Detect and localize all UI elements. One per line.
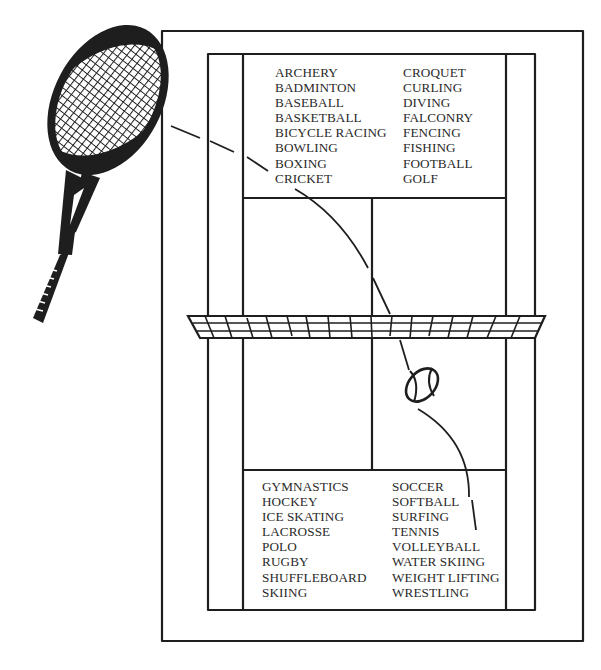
sport-item: SKIING	[262, 585, 367, 600]
sport-item: SOFTBALL	[392, 494, 500, 509]
sport-item: FOOTBALL	[403, 156, 473, 171]
sport-item: GYMNASTICS	[262, 479, 367, 494]
sport-item: FALCONRY	[403, 110, 473, 125]
sport-item: LACROSSE	[262, 524, 367, 539]
sport-item: BADMINTON	[275, 80, 387, 95]
tennis-racket-icon	[23, 4, 193, 323]
tennis-ball-icon	[400, 362, 445, 408]
sport-item: BICYCLE RACING	[275, 125, 387, 140]
sport-item: WATER SKIING	[392, 554, 500, 569]
sport-item: BASKETBALL	[275, 110, 387, 125]
sport-item: SHUFFLEBOARD	[262, 570, 367, 585]
sport-item: VOLLEYBALL	[392, 539, 500, 554]
sports-list-top-left: ARCHERY BADMINTON BASEBALL BASKETBALL BI…	[275, 65, 387, 186]
sports-list-bottom-left: GYMNASTICS HOCKEY ICE SKATING LACROSSE P…	[262, 479, 367, 600]
net	[188, 316, 545, 338]
sport-item: FENCING	[403, 125, 473, 140]
sport-item: BOXING	[275, 156, 387, 171]
sport-item: WEIGHT LIFTING	[392, 570, 500, 585]
sport-item: ICE SKATING	[262, 509, 367, 524]
sport-item: DIVING	[403, 95, 473, 110]
sport-item: TENNIS	[392, 524, 500, 539]
sports-list-top-right: CROQUET CURLING DIVING FALCONRY FENCING …	[403, 65, 473, 186]
sport-item: BOWLING	[275, 140, 387, 155]
sport-item: CROQUET	[403, 65, 473, 80]
sport-item: ARCHERY	[275, 65, 387, 80]
sports-list-bottom-right: SOCCER SOFTBALL SURFING TENNIS VOLLEYBAL…	[392, 479, 500, 600]
sport-item: HOCKEY	[262, 494, 367, 509]
sport-item: SURFING	[392, 509, 500, 524]
sport-item: CRICKET	[275, 171, 387, 186]
sport-item: POLO	[262, 539, 367, 554]
sport-item: WRESTLING	[392, 585, 500, 600]
sport-item: RUGBY	[262, 554, 367, 569]
sport-item: GOLF	[403, 171, 473, 186]
sport-item: SOCCER	[392, 479, 500, 494]
sport-item: CURLING	[403, 80, 473, 95]
sport-item: FISHING	[403, 140, 473, 155]
sport-item: BASEBALL	[275, 95, 387, 110]
